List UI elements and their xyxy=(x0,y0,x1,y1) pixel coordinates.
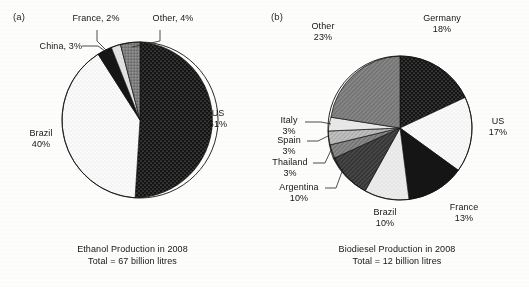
pie-b-label-brazil-pct: 10% xyxy=(362,218,408,229)
pie-b-label-other: Other 23% xyxy=(292,21,354,42)
pie-b-label-spain-name: Spain xyxy=(269,135,309,146)
leader-thailand xyxy=(313,150,331,163)
pie-b-label-argentina-pct: 10% xyxy=(271,193,327,204)
pie-b-label-italy-name: Italy xyxy=(271,115,307,126)
pie-b-label-germany-name: Germany xyxy=(411,13,473,24)
pie-b-label-france-pct: 13% xyxy=(441,213,487,224)
pie-b-label-spain-pct: 3% xyxy=(269,146,309,157)
panel-a-caption: Ethanol Production in 2008 Total = 67 bi… xyxy=(0,243,265,267)
pie-b-label-thailand-pct: 3% xyxy=(265,168,315,179)
panel-b-caption: Biodiesel Production in 2008 Total = 12 … xyxy=(265,243,529,267)
pie-b-label-france: France 13% xyxy=(441,202,487,223)
leader-spain xyxy=(307,136,328,141)
two-pie-chart-figure: (a) xyxy=(0,0,529,287)
pie-a-label-china: China, 3% xyxy=(8,41,82,52)
pie-b-label-italy: Italy 3% xyxy=(271,115,307,136)
pie-a-label-brazil-pct: 40% xyxy=(18,139,64,150)
leader-france xyxy=(97,30,106,50)
pie-b-label-brazil-name: Brazil xyxy=(362,207,408,218)
panel-a-caption-line2: Total = 67 billion litres xyxy=(0,255,265,267)
pie-a-label-us: US 51% xyxy=(196,108,240,129)
pie-b-label-other-name: Other xyxy=(292,21,354,32)
pie-b-label-germany-pct: 18% xyxy=(411,24,473,35)
panel-b-caption-line2: Total = 12 billion litres xyxy=(265,255,529,267)
panel-a-caption-line1: Ethanol Production in 2008 xyxy=(0,243,265,255)
pie-b-label-germany: Germany 18% xyxy=(411,13,473,34)
pie-b-label-us: US 17% xyxy=(478,116,518,137)
pie-b-label-argentina-name: Argentina xyxy=(271,182,327,193)
pie-b-label-france-name: France xyxy=(441,202,487,213)
pie-b-label-spain: Spain 3% xyxy=(269,135,309,156)
panel-a-ethanol: (a) xyxy=(0,0,265,287)
pie-b-label-us-name: US xyxy=(478,116,518,127)
panel-b-biodiesel: (b) xyxy=(265,0,529,287)
leader-argentina xyxy=(325,169,343,188)
pie-b-label-thailand-name: Thailand xyxy=(265,157,315,168)
pie-b-label-us-pct: 17% xyxy=(478,127,518,138)
pie-a-label-other: Other, 4% xyxy=(139,13,207,24)
pie-a-label-brazil-name: Brazil xyxy=(18,128,64,139)
pie-a-label-us-name: US xyxy=(196,108,240,119)
pie-a-label-france: France, 2% xyxy=(58,13,134,24)
pie-b-label-other-pct: 23% xyxy=(292,32,354,43)
pie-b-label-italy-pct: 3% xyxy=(271,126,307,137)
pie-a-label-brazil: Brazil 40% xyxy=(18,128,64,149)
panel-b-caption-line1: Biodiesel Production in 2008 xyxy=(265,243,529,255)
pie-b-label-brazil: Brazil 10% xyxy=(362,207,408,228)
leader-italy xyxy=(305,122,331,124)
pie-b-label-thailand: Thailand 3% xyxy=(265,157,315,178)
pie-a-label-us-pct: 51% xyxy=(196,119,240,130)
pie-b-label-argentina: Argentina 10% xyxy=(271,182,327,203)
pie-b-slice-other xyxy=(331,56,400,128)
